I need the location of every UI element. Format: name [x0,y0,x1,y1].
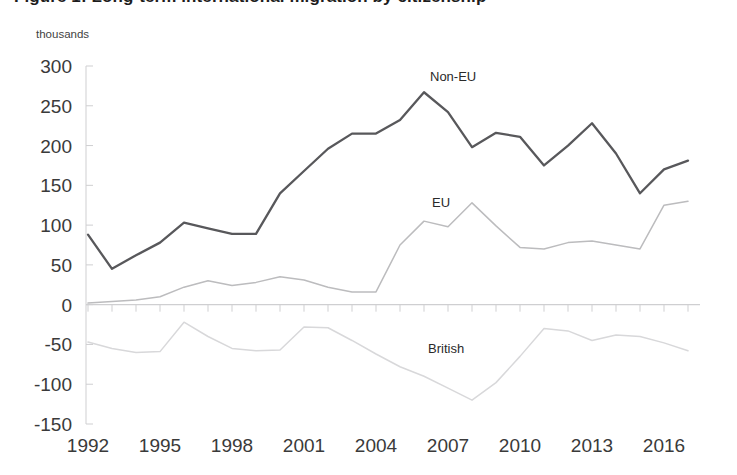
y-tick-label: -150 [20,415,72,434]
y-tick-label: 300 [20,57,72,76]
y-tick-label: -50 [20,335,72,354]
series-lines [88,92,688,400]
y-axis-tick-labels: 300250200150100500-50-100-150 [10,0,72,475]
migration-chart-figure: Figure 1: Long-term international migrat… [0,0,737,475]
y-tick-label: 50 [20,256,72,275]
series-line-british [88,322,688,400]
x-tick-label: 1992 [67,436,109,455]
axis-lines [86,66,700,424]
series-label-british: British [428,342,464,355]
y-tick-label: 250 [20,97,72,116]
series-label-eu: EU [432,196,450,209]
x-tick-label: 2016 [643,436,685,455]
x-tick-label: 2004 [355,436,397,455]
plot-area [0,0,737,475]
x-tick-label: 1995 [139,436,181,455]
series-line-non-eu [88,92,688,269]
y-tick-label: 100 [20,216,72,235]
x-tick-label: 2001 [283,436,325,455]
x-tick-label: 2007 [427,436,469,455]
x-tick-label: 2010 [499,436,541,455]
y-tick-label: -100 [20,375,72,394]
y-tick-label: 150 [20,176,72,195]
x-tick-label: 1998 [211,436,253,455]
series-line-eu [88,201,688,303]
y-tick-label: 0 [20,296,72,315]
series-label-non-eu: Non-EU [430,70,476,83]
x-tick-label: 2013 [571,436,613,455]
y-tick-label: 200 [20,137,72,156]
chart-title: Figure 1: Long-term international migrat… [14,0,714,7]
